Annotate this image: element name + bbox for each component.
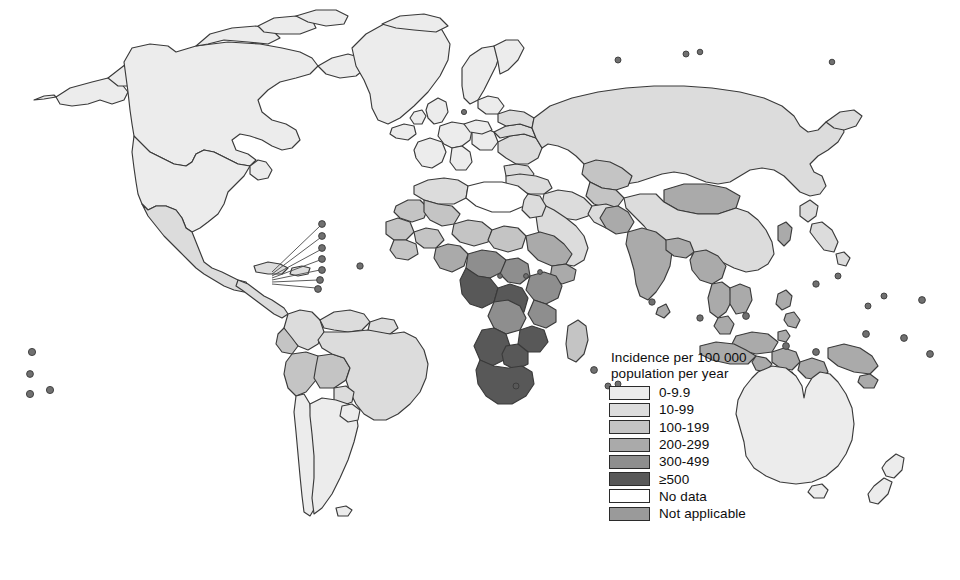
legend-item-300-499: 300-499 bbox=[609, 453, 859, 470]
legend-label: 100-199 bbox=[659, 420, 709, 435]
legend-swatch bbox=[609, 420, 650, 434]
legend-swatch bbox=[609, 507, 650, 521]
legend-label: ≥500 bbox=[659, 472, 689, 487]
legend-title-line1: Incidence per 100 000 bbox=[611, 350, 859, 366]
legend-item-200-299: 200-299 bbox=[609, 436, 859, 453]
legend-label: Not applicable bbox=[659, 506, 746, 521]
legend-label: 10-99 bbox=[659, 402, 694, 417]
map-figure: .L { fill:#ececec; } /* 0-9.9 */ .A { fi… bbox=[0, 0, 960, 580]
legend-item-500-plus: ≥500 bbox=[609, 470, 859, 487]
legend-label: No data bbox=[659, 489, 707, 504]
legend-rows: 0-9.9 10-99 100-199 200-299 300-499 ≥500 bbox=[609, 384, 859, 522]
legend-swatch bbox=[609, 455, 650, 469]
map-legend: Incidence per 100 000 population per yea… bbox=[609, 350, 859, 522]
legend-swatch bbox=[609, 386, 650, 400]
legend-label: 300-499 bbox=[659, 454, 709, 469]
legend-item-0-9-9: 0-9.9 bbox=[609, 384, 859, 401]
legend-label: 200-299 bbox=[659, 437, 709, 452]
legend-item-not-applicable: Not applicable bbox=[609, 505, 859, 522]
legend-swatch bbox=[609, 403, 650, 417]
legend-swatch bbox=[609, 489, 650, 503]
legend-label: 0-9.9 bbox=[659, 385, 690, 400]
legend-item-10-99: 10-99 bbox=[609, 401, 859, 418]
legend-title: Incidence per 100 000 population per yea… bbox=[611, 350, 859, 381]
legend-swatch bbox=[609, 438, 650, 452]
legend-swatch bbox=[609, 472, 650, 486]
legend-item-no-data: No data bbox=[609, 488, 859, 505]
legend-item-100-199: 100-199 bbox=[609, 419, 859, 436]
legend-title-line2: population per year bbox=[611, 366, 859, 382]
